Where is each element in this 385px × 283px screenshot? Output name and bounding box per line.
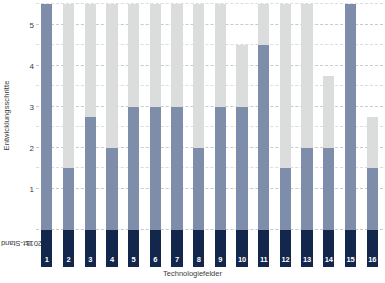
bar-segment-entwicklungsschritte <box>367 168 378 230</box>
bar-segment-potenzial <box>301 4 312 148</box>
bar-column[interactable] <box>150 4 161 230</box>
bar-segment-potenzial <box>193 4 204 148</box>
y-axis-ticks: 12345 <box>10 0 34 283</box>
x-axis-category-label[interactable]: 7 <box>171 252 182 267</box>
baseline-block <box>171 230 182 252</box>
bar-column[interactable] <box>215 4 226 230</box>
bar-segment-potenzial <box>106 4 117 148</box>
x-axis-category-labels: 12345678910111213141516 <box>36 252 383 268</box>
x-axis-title: Technologiefelder <box>0 269 385 278</box>
bar-column[interactable] <box>345 4 356 230</box>
bar-segment-entwicklungsschritte <box>345 4 356 230</box>
bar-segment-entwicklungsschritte <box>215 107 226 230</box>
bar-column[interactable] <box>85 4 96 230</box>
bar-segment-potenzial <box>236 45 247 107</box>
baseline-block <box>323 230 334 252</box>
y-tick-label: 5 <box>18 20 34 29</box>
baseline-block <box>63 230 74 252</box>
x-axis-category-label[interactable]: 12 <box>280 252 291 267</box>
x-axis-category-label[interactable]: 3 <box>85 252 96 267</box>
bar-column[interactable] <box>41 4 52 230</box>
bar-segment-potenzial <box>171 4 182 107</box>
bar-column[interactable] <box>128 4 139 230</box>
bar-segment-entwicklungsschritte <box>41 4 52 230</box>
bar-segment-entwicklungsschritte <box>171 107 182 230</box>
chart-container: Entwicklungsschritte Ist-Stand2011 12345… <box>0 0 385 283</box>
x-axis-category-label[interactable]: 14 <box>323 252 334 267</box>
x-axis-category-label[interactable]: 15 <box>345 252 356 267</box>
baseline-blocks <box>36 230 383 252</box>
bar-segment-entwicklungsschritte <box>85 117 96 230</box>
baseline-block <box>215 230 226 252</box>
bar-column[interactable] <box>236 4 247 230</box>
y-tick-label: 1 <box>18 184 34 193</box>
bar-segment-potenzial <box>323 76 334 148</box>
baseline-block <box>236 230 247 252</box>
baseline-block <box>106 230 117 252</box>
bar-column[interactable] <box>258 4 269 230</box>
bar-column[interactable] <box>106 4 117 230</box>
bar-segment-entwicklungsschritte <box>193 148 204 230</box>
bar-segment-entwicklungsschritte <box>106 148 117 230</box>
y-tick-label: 2 <box>18 143 34 152</box>
x-axis-category-label[interactable]: 8 <box>193 252 204 267</box>
bar-column[interactable] <box>63 4 74 230</box>
baseline-block <box>193 230 204 252</box>
bar-segment-entwicklungsschritte <box>301 148 312 230</box>
bar-column[interactable] <box>280 4 291 230</box>
baseline-block <box>85 230 96 252</box>
plot-area <box>36 4 383 230</box>
bar-segment-entwicklungsschritte <box>280 168 291 230</box>
bar-column[interactable] <box>171 4 182 230</box>
bar-column[interactable] <box>193 4 204 230</box>
bar-segment-entwicklungsschritte <box>150 107 161 230</box>
x-axis-category-label[interactable]: 5 <box>128 252 139 267</box>
bar-segment-entwicklungsschritte <box>63 168 74 230</box>
y-tick-label: 4 <box>18 61 34 70</box>
baseline-block <box>128 230 139 252</box>
baseline-block <box>367 230 378 252</box>
bar-column[interactable] <box>367 4 378 230</box>
bar-segment-potenzial <box>150 4 161 107</box>
baseline-block <box>150 230 161 252</box>
baseline-block <box>280 230 291 252</box>
x-axis-category-label[interactable]: 13 <box>301 252 312 267</box>
x-axis-category-label[interactable]: 10 <box>236 252 247 267</box>
baseline-block <box>41 230 52 252</box>
baseline-block <box>301 230 312 252</box>
baseline-block <box>345 230 356 252</box>
bar-segment-potenzial <box>258 4 269 45</box>
x-axis-category-label[interactable]: 9 <box>215 252 226 267</box>
bar-segment-potenzial <box>280 4 291 168</box>
bar-segment-entwicklungsschritte <box>236 107 247 230</box>
x-axis-category-label[interactable]: 16 <box>367 252 378 267</box>
bar-segment-potenzial <box>63 4 74 168</box>
bar-segment-potenzial <box>128 4 139 107</box>
bar-column[interactable] <box>323 4 334 230</box>
bars-layer <box>36 4 383 230</box>
x-axis-category-label[interactable]: 6 <box>150 252 161 267</box>
bar-segment-potenzial <box>85 4 96 117</box>
bar-segment-potenzial <box>215 4 226 107</box>
bar-segment-potenzial <box>367 117 378 168</box>
bar-segment-entwicklungsschritte <box>258 45 269 230</box>
bar-column[interactable] <box>301 4 312 230</box>
baseline-block <box>258 230 269 252</box>
x-axis-category-label[interactable]: 1 <box>41 252 52 267</box>
bar-segment-entwicklungsschritte <box>128 107 139 230</box>
x-axis-category-label[interactable]: 4 <box>106 252 117 267</box>
y-tick-label: 3 <box>18 102 34 111</box>
bar-segment-entwicklungsschritte <box>323 148 334 230</box>
x-axis-category-label[interactable]: 11 <box>258 252 269 267</box>
x-axis-category-label[interactable]: 2 <box>63 252 74 267</box>
